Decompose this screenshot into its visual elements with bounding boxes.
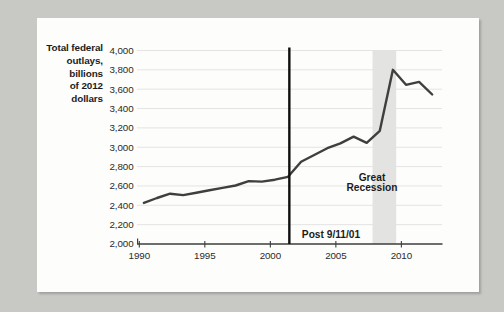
- y-tick-label: 2,000: [109, 238, 134, 249]
- y-tick-label: 2,600: [109, 180, 134, 191]
- y-tick-label: 4,000: [109, 45, 134, 56]
- x-tick-label: 1995: [194, 250, 216, 261]
- x-tick-label: 2005: [325, 250, 347, 261]
- y-tick-label: 3,800: [109, 64, 134, 75]
- great-recession-label: Recession: [347, 182, 398, 193]
- chart-card: Total federal outlays, billions of 2012 …: [37, 18, 479, 292]
- y-tick-label: 2,800: [109, 161, 134, 172]
- great-recession-label: Great: [359, 172, 386, 183]
- y-tick-label: 3,000: [109, 142, 134, 153]
- post-911-label: Post 9/11/01: [302, 229, 361, 240]
- federal-outlays-line-chart: 2,0002,2002,4002,6002,8003,0003,2003,400…: [37, 18, 479, 292]
- y-tick-label: 3,600: [109, 84, 134, 95]
- x-tick-label: 2010: [391, 250, 413, 261]
- recession-band: [373, 50, 397, 244]
- y-tick-label: 3,400: [109, 103, 134, 114]
- x-tick-label: 1990: [129, 250, 151, 261]
- x-tick-label: 2000: [260, 250, 282, 261]
- y-tick-label: 2,400: [109, 200, 134, 211]
- y-tick-label: 3,200: [109, 122, 134, 133]
- y-tick-label: 2,200: [109, 219, 134, 230]
